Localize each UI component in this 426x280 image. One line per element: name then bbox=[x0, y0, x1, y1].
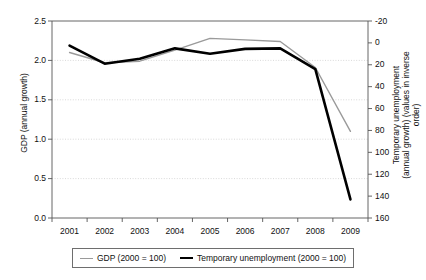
plot-frame bbox=[52, 21, 368, 218]
right-axis-ticks bbox=[368, 21, 372, 218]
unemployment-line-swatch bbox=[180, 257, 193, 259]
right-tick-label-40: 40 bbox=[375, 81, 405, 91]
x-tick-label-2001: 2001 bbox=[51, 226, 89, 236]
x-tick-label-2009: 2009 bbox=[331, 226, 369, 236]
chart-figure: GDP (annual growth) Temporary unemployme… bbox=[0, 0, 426, 280]
right-tick-label--20: -20 bbox=[375, 16, 405, 26]
right-tick-label-120: 120 bbox=[375, 169, 405, 179]
right-tick-label-140: 140 bbox=[375, 191, 405, 201]
chart-legend: GDP (2000 = 100) Temporary unemployment … bbox=[72, 248, 354, 268]
legend-label-gdp: GDP (2000 = 100) bbox=[97, 253, 166, 263]
right-axis-title-line2: (annual growth) (values in inverse order… bbox=[401, 51, 421, 179]
right-tick-label-160: 160 bbox=[375, 213, 405, 223]
legend-label-temporary-unemployment: Temporary unemployment (2000 = 100) bbox=[197, 253, 346, 263]
right-tick-label-80: 80 bbox=[375, 125, 405, 135]
x-axis-ticks bbox=[52, 218, 368, 222]
left-tick-label-1.5: 1.5 bbox=[8, 94, 46, 104]
left-tick-label-2.0: 2.0 bbox=[8, 55, 46, 65]
left-tick-label-1.0: 1.0 bbox=[8, 134, 46, 144]
legend-item-temporary-unemployment: Temporary unemployment (2000 = 100) bbox=[180, 253, 346, 263]
left-axis-ticks bbox=[48, 21, 52, 218]
x-tick-label-2007: 2007 bbox=[261, 226, 299, 236]
gdp-line-swatch bbox=[80, 258, 93, 259]
right-tick-label-0: 0 bbox=[375, 37, 405, 47]
chart-plot-svg bbox=[0, 0, 426, 280]
left-tick-label-0.0: 0.0 bbox=[8, 213, 46, 223]
legend-item-gdp: GDP (2000 = 100) bbox=[80, 253, 166, 263]
left-tick-label-0.5: 0.5 bbox=[8, 173, 46, 183]
right-tick-label-100: 100 bbox=[375, 147, 405, 157]
x-tick-label-2002: 2002 bbox=[86, 226, 124, 236]
x-tick-label-2003: 2003 bbox=[121, 226, 159, 236]
x-tick-label-2005: 2005 bbox=[191, 226, 229, 236]
right-tick-label-60: 60 bbox=[375, 103, 405, 113]
x-tick-label-2006: 2006 bbox=[226, 226, 264, 236]
x-tick-label-2008: 2008 bbox=[296, 226, 334, 236]
x-tick-label-2004: 2004 bbox=[156, 226, 194, 236]
series-lines-group bbox=[70, 38, 351, 199]
right-tick-label-20: 20 bbox=[375, 59, 405, 69]
left-tick-label-2.5: 2.5 bbox=[8, 16, 46, 26]
